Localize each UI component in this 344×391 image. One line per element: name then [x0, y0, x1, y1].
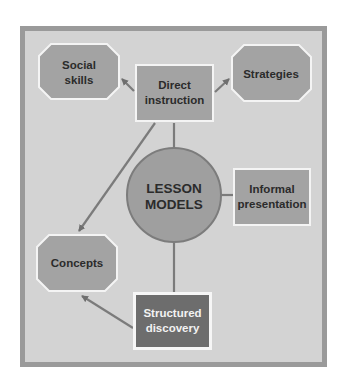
node-social-skills: Social skills: [39, 44, 119, 99]
informal-presentation-label-1: Informal: [249, 183, 294, 195]
node-structured-discovery: Structured discovery: [135, 294, 211, 349]
node-informal-presentation: Informal presentation: [234, 169, 310, 225]
social-skills-label-2: skills: [65, 74, 94, 86]
direct-instruction-label-1: Direct: [158, 79, 191, 91]
direct-instruction-label-2: instruction: [145, 94, 204, 106]
lesson-models-diagram: Social skills Strategies Direct instruct…: [0, 0, 344, 391]
lesson-models-label-2: MODELS: [145, 197, 203, 212]
concepts-label: Concepts: [51, 257, 103, 269]
structured-discovery-label-1: Structured: [143, 307, 201, 319]
social-skills-label-1: Social: [62, 59, 96, 71]
strategies-label: Strategies: [243, 68, 299, 80]
structured-discovery-label-2: discovery: [146, 322, 200, 334]
octagon-shape: [39, 44, 119, 99]
informal-presentation-label-2: presentation: [237, 198, 306, 210]
lesson-models-label-1: LESSON: [146, 181, 202, 196]
rectangle-shape: [234, 169, 310, 225]
node-direct-instruction: Direct instruction: [136, 65, 213, 121]
node-concepts: Concepts: [37, 235, 117, 291]
node-strategies: Strategies: [232, 45, 311, 101]
rectangle-shape: [136, 65, 213, 121]
rectangle-shape: [135, 294, 211, 349]
node-lesson-models: LESSON MODELS: [127, 148, 221, 242]
